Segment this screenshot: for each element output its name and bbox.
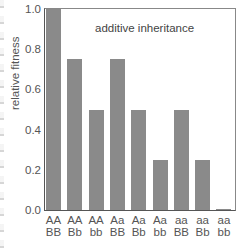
x-tick-label-line: bb [213,226,235,238]
scan-edge-artifact [0,0,4,251]
y-tick-label: 0.0 [25,204,41,216]
bar [46,9,61,210]
x-tick-label: aabb [213,214,235,238]
bar [67,59,82,210]
y-tick-label: 1.0 [25,3,41,15]
bar [153,160,168,210]
x-tick-label: AAbb [85,214,107,238]
bar [131,110,146,211]
x-tick-label-line: Bb [128,226,150,238]
x-tick-label: aaBb [192,214,214,238]
x-tick-label: AABB [43,214,65,238]
plot-area [44,8,236,211]
bar [216,209,231,210]
x-tick-label-line: bb [85,226,107,238]
x-tick-label-line: BB [170,226,192,238]
bar [89,110,104,211]
x-tick-label-line: Aa [106,214,128,226]
x-tick-label-line: aa [192,214,214,226]
bar [174,110,189,211]
x-tick-label-line: aa [170,214,192,226]
x-tick-label-line: AA [64,214,86,226]
x-tick-label: aaBB [170,214,192,238]
x-tick-label: Aabb [149,214,171,238]
x-tick-label-line: AA [85,214,107,226]
x-tick-label-line: Bb [64,226,86,238]
x-tick-label-line: Bb [192,226,214,238]
x-tick-label-line: bb [149,226,171,238]
y-tick-label: 0.2 [25,164,41,176]
y-axis-label: relative fitness [9,36,21,110]
x-tick-label-line: BB [106,226,128,238]
bar [110,59,125,210]
x-tick-label: AaBb [128,214,150,238]
x-tick-label-line: aa [213,214,235,226]
y-tick-label: 0.4 [25,124,41,136]
bar [195,160,210,210]
y-tick-label: 0.6 [25,83,41,95]
y-tick-label: 0.8 [25,43,41,55]
x-tick-label: AaBB [106,214,128,238]
x-tick-label-line: BB [43,226,65,238]
chart-title: additive inheritance [95,22,194,34]
x-tick-label-line: Aa [128,214,150,226]
x-tick-label-line: AA [43,214,65,226]
x-tick-label-line: Aa [149,214,171,226]
x-tick-label: AABb [64,214,86,238]
